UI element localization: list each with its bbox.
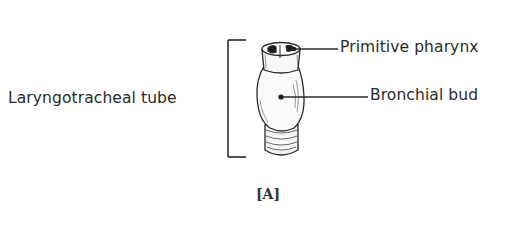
figure-caption: [A]: [256, 186, 280, 202]
label-primitive-pharynx: Primitive pharynx: [340, 38, 479, 56]
bracket: [228, 40, 246, 157]
label-bronchial-bud: Bronchial bud: [370, 86, 478, 104]
bud-dot: [278, 94, 283, 99]
label-laryngotracheal-tube: Laryngotracheal tube: [8, 89, 177, 107]
pharynx-dot: [292, 47, 297, 52]
